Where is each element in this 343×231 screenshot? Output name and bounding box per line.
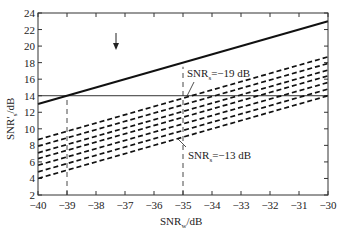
annotation-arrow-top xyxy=(187,82,194,96)
annotation-arrow-bottom xyxy=(178,139,186,147)
y-tick-label: 14 xyxy=(24,90,36,102)
y-tick-label: 4 xyxy=(30,172,36,184)
x-tick-label: −38 xyxy=(87,199,105,211)
annotation-snr-minus-13: SNRs=−13 dB xyxy=(188,149,251,164)
x-tick-label: −34 xyxy=(203,199,221,211)
chart: −40−39−38−37−36−35−34−33−32−31−302468101… xyxy=(0,0,343,231)
x-axis-label: SNRw/dB xyxy=(160,215,202,230)
y-tick-label: 10 xyxy=(24,123,36,135)
down-arrow-icon xyxy=(113,33,119,50)
x-tick-label: −36 xyxy=(145,199,163,211)
y-axis-label: SNR′s/dB xyxy=(4,98,19,140)
axis-ticks: −40−39−38−37−36−35−34−33−32−31−302468101… xyxy=(24,7,337,211)
x-tick-label: −37 xyxy=(116,199,134,211)
x-tick-label: −30 xyxy=(319,199,337,211)
y-tick-label: 12 xyxy=(24,106,35,118)
x-tick-label: −33 xyxy=(232,199,250,211)
y-tick-label: 24 xyxy=(24,7,36,19)
y-tick-label: 2 xyxy=(30,189,36,201)
y-tick-label: 18 xyxy=(24,57,36,69)
y-tick-label: 16 xyxy=(24,73,36,85)
data-lines xyxy=(38,21,328,195)
x-tick-label: −31 xyxy=(290,199,307,211)
y-tick-label: 6 xyxy=(30,156,36,168)
x-tick-label: −35 xyxy=(174,199,192,211)
y-tick-label: 8 xyxy=(30,139,36,151)
y-tick-label: 22 xyxy=(24,24,35,36)
annotation-snr-minus-19: SNRs=−19 dB xyxy=(187,67,250,82)
x-tick-label: −39 xyxy=(58,199,76,211)
y-tick-label: 20 xyxy=(24,40,36,52)
x-tick-label: −32 xyxy=(261,199,278,211)
